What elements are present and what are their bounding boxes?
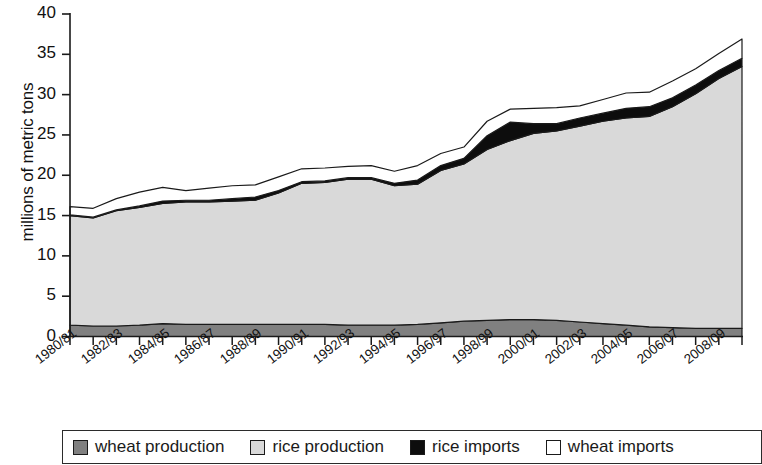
legend-label: rice imports <box>432 437 520 457</box>
chart-legend: wheat productionrice productionrice impo… <box>62 430 762 464</box>
legend-item: rice imports <box>410 437 520 457</box>
legend-item: rice production <box>250 437 384 457</box>
y-tick-marks <box>62 14 70 337</box>
legend-item: wheat production <box>73 437 224 457</box>
legend-swatch-icon <box>410 440 425 455</box>
y-tick-label: 5 <box>22 285 56 305</box>
legend-swatch-icon <box>250 440 265 455</box>
legend-swatch-icon <box>546 440 561 455</box>
y-tick-label: 10 <box>22 245 56 265</box>
legend-item: wheat imports <box>546 437 674 457</box>
legend-label: rice production <box>272 437 384 457</box>
y-tick-label: 25 <box>22 124 56 144</box>
legend-swatch-icon <box>73 440 88 455</box>
y-tick-label: 35 <box>22 43 56 63</box>
y-tick-label: 40 <box>22 3 56 23</box>
area-series-group <box>70 39 742 337</box>
y-tick-label: 15 <box>22 205 56 225</box>
y-tick-label: 30 <box>22 84 56 104</box>
legend-label: wheat imports <box>568 437 674 457</box>
legend-label: wheat production <box>95 437 224 457</box>
y-tick-label: 20 <box>22 164 56 184</box>
